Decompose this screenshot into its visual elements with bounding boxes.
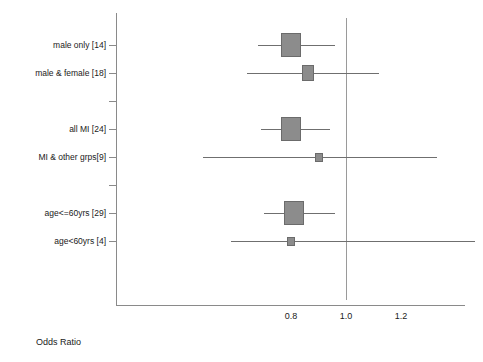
reference-line-or-1	[346, 18, 347, 300]
estimate-box	[302, 65, 314, 81]
x-axis-tick-label: 1.0	[326, 311, 366, 321]
estimate-box	[284, 201, 304, 225]
x-axis-title-text: Odds Ratio	[36, 337, 81, 347]
y-axis-tick	[109, 73, 116, 74]
y-axis-tick	[109, 213, 116, 214]
y-axis-tick	[109, 45, 116, 46]
y-axis-tick	[109, 129, 116, 130]
y-axis-tick	[109, 157, 116, 158]
x-axis-line	[116, 305, 465, 306]
y-axis-tick	[109, 185, 116, 186]
y-axis-tick	[109, 241, 116, 242]
x-axis-tick-label: 0.8	[271, 311, 311, 321]
estimate-box	[281, 117, 301, 141]
row-label: MI & other grps[9]	[2, 152, 106, 162]
confidence-interval-line	[231, 241, 476, 242]
row-label: male & female [18]	[2, 68, 106, 78]
row-label: male only [14]	[2, 40, 106, 50]
estimate-box	[315, 153, 323, 162]
forest-plot: male only [14]male & female [18]all MI […	[0, 0, 483, 362]
estimate-box	[287, 237, 295, 246]
x-axis-title: Odds Ratio	[0, 337, 483, 347]
estimate-box	[281, 33, 301, 57]
x-axis-tick-label: 1.2	[381, 311, 421, 321]
y-axis-line	[116, 13, 117, 306]
row-label: age<60yrs [4]	[2, 236, 106, 246]
y-axis-tick	[109, 101, 116, 102]
row-label: all MI [24]	[2, 124, 106, 134]
row-label: age<=60yrs [29]	[2, 208, 106, 218]
